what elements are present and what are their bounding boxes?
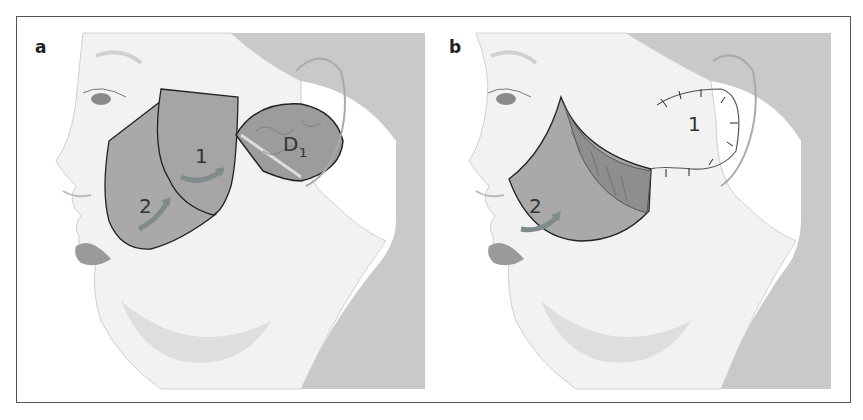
flap-1-label: 1 [195, 144, 208, 168]
panel-b-label: b [449, 37, 461, 57]
panel-a: 1 2 D 1 a [17, 17, 435, 402]
flap-2-label: 2 [139, 194, 152, 218]
defect-label: D [283, 132, 298, 156]
panel-a-label: a [35, 37, 46, 57]
defect-subscript: 1 [299, 145, 307, 160]
panel-b: 1 2 b [434, 17, 850, 402]
figure-frame: 1 2 D 1 a 1 [16, 16, 851, 403]
flap-2-label-b: 2 [529, 194, 542, 218]
panel-a-illustration: 1 2 D 1 [17, 17, 435, 402]
panel-b-illustration: 1 2 [434, 17, 850, 402]
flap-1-label-b: 1 [688, 112, 701, 136]
